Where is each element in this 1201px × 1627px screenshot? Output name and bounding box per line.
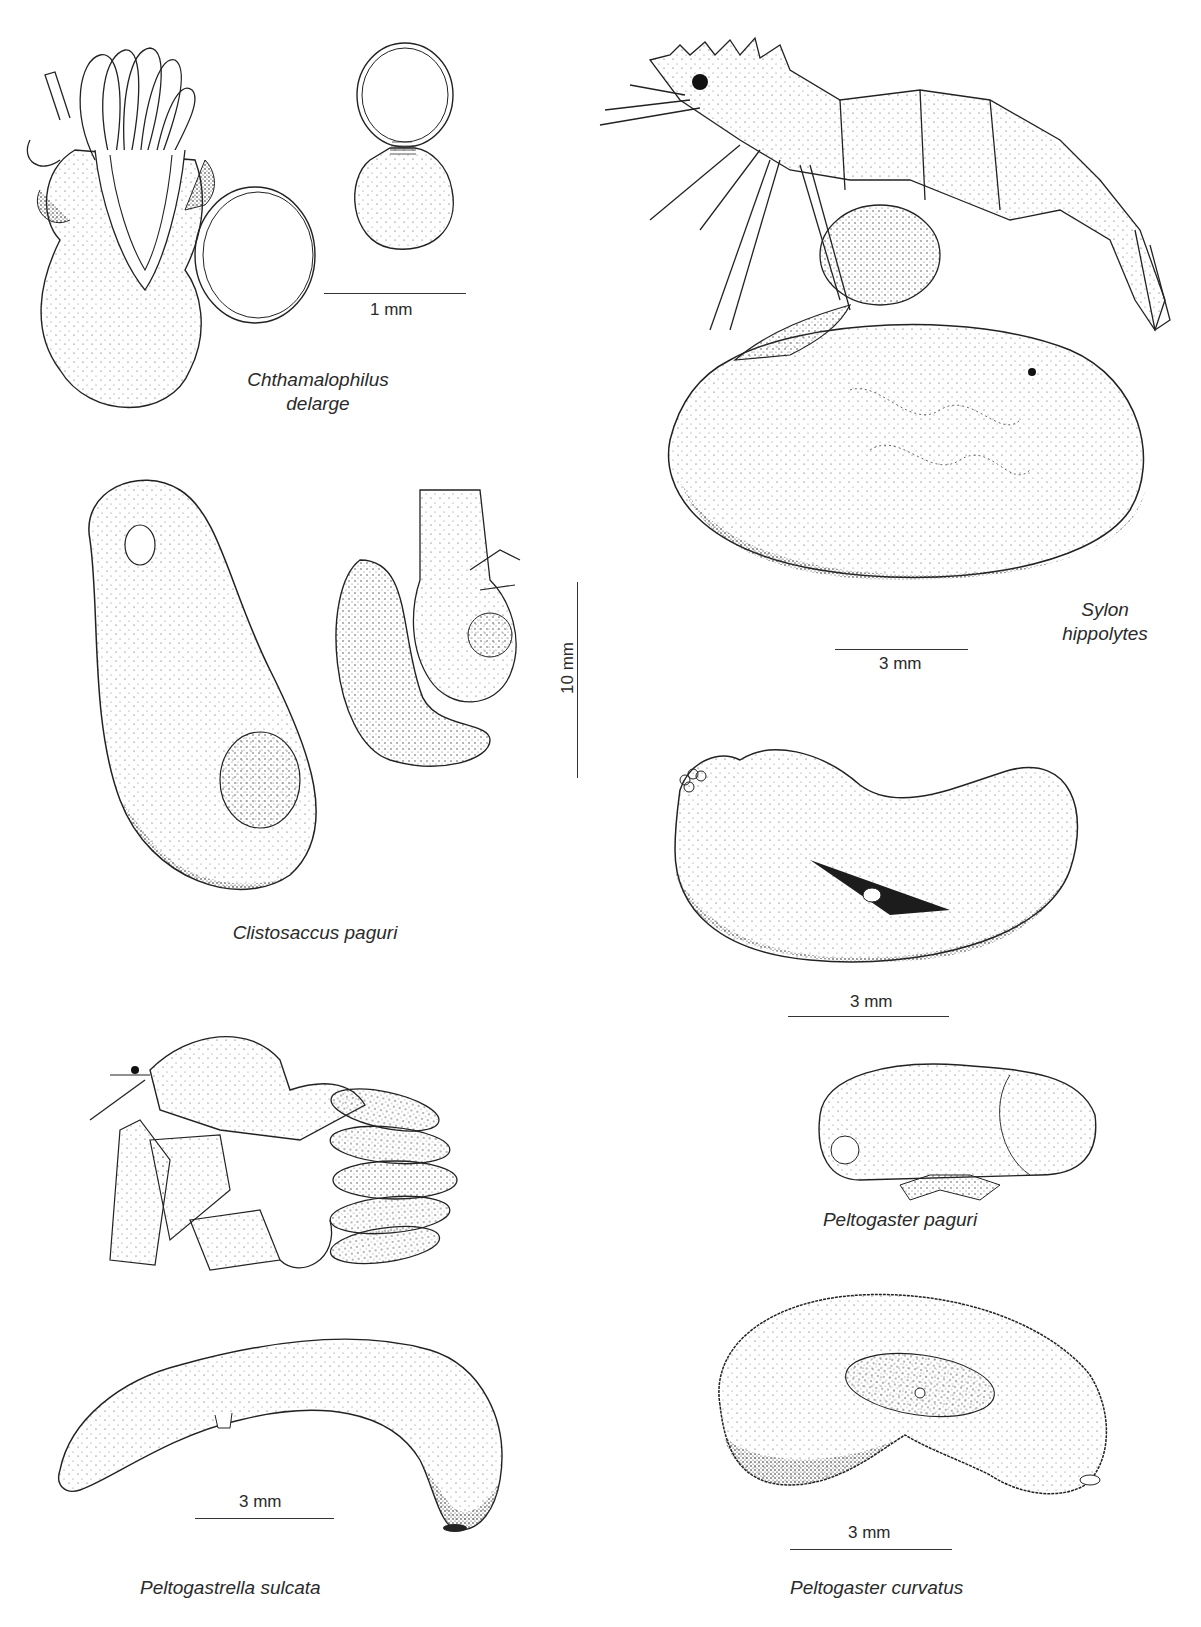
species-label-peltogaster-curvatus: Peltogaster curvatus <box>790 1576 1000 1600</box>
illustration-plate: 1 mm Chthamalophilus delarge <box>0 0 1201 1627</box>
species-label-chthamalophilus: Chthamalophilus delarge <box>228 368 408 416</box>
sylon-externa-drawing <box>640 300 1160 590</box>
peltogaster-paguri-drawing <box>800 1055 1100 1205</box>
clistosaccus-externa-drawing <box>60 470 360 900</box>
peltogaster-externa-drawing <box>660 730 1090 970</box>
clistosaccus-host-pagurus-drawing <box>330 460 540 790</box>
species-label-peltogastrella: Peltogastrella sulcata <box>140 1576 380 1600</box>
peltogaster-curvatus-drawing <box>690 1285 1120 1515</box>
egg-sac-detail-drawing <box>330 40 480 260</box>
species-label-peltogaster-paguri: Peltogaster paguri <box>800 1208 1000 1232</box>
hermit-crab-host-drawing <box>80 1020 510 1280</box>
species-label-sylon: Sylon hippolytes <box>1040 598 1170 646</box>
species-label-clistosaccus: Clistosaccus paguri <box>225 921 405 945</box>
